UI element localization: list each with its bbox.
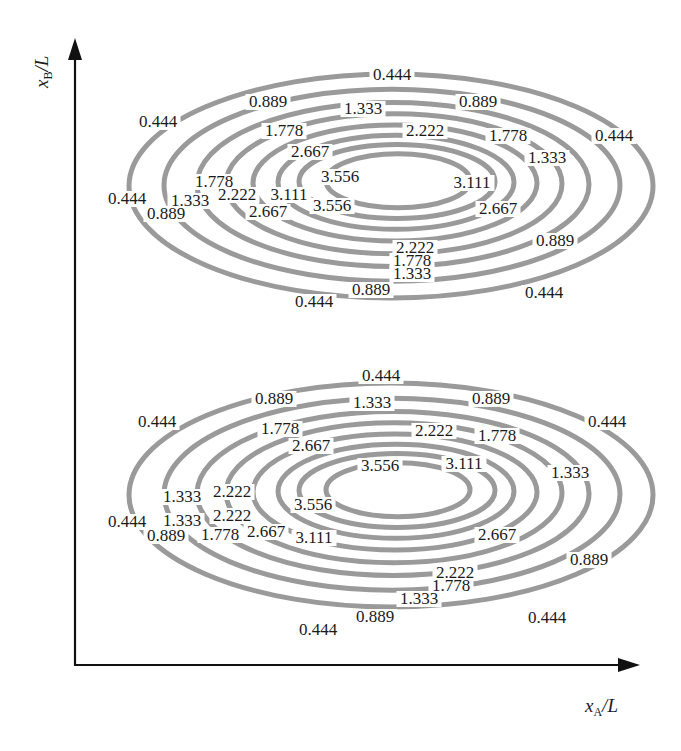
contour-level-label: 1.333 — [393, 264, 431, 283]
contour-level-label: 1.778 — [478, 426, 516, 445]
axes — [68, 38, 640, 672]
contour-level-label: 2.667 — [478, 525, 517, 544]
contour-level-label: 1.333 — [551, 463, 589, 482]
contour-level-label: 0.444 — [108, 512, 147, 531]
contour-level-label: 0.444 — [373, 65, 412, 84]
contour-level-label: 3.111 — [454, 173, 491, 192]
y-axis-arrow-icon — [68, 38, 82, 60]
contour-labels: 0.4440.8891.3330.8890.4441.7782.2221.778… — [105, 65, 637, 639]
contour-level-label: 1.333 — [400, 589, 438, 608]
contour-level-label: 0.889 — [356, 607, 394, 626]
contour-level-label: 0.444 — [528, 608, 567, 627]
contour-level-label: 1.333 — [528, 148, 566, 167]
contour-level-label: 0.444 — [525, 283, 564, 302]
contour-level-label: 3.111 — [446, 454, 483, 473]
contour-level-label: 0.444 — [108, 189, 147, 208]
contour-level-label: 2.222 — [415, 421, 453, 440]
contour-level-label: 3.111 — [296, 528, 333, 547]
contour-level-label: 1.778 — [265, 121, 303, 140]
x-axis-label: xA/L — [584, 695, 618, 719]
contour-level-label: 0.889 — [570, 550, 608, 569]
contour-level-label: 0.444 — [588, 412, 627, 431]
contour-level-label: 2.667 — [247, 522, 286, 541]
contour-level-label: 3.556 — [294, 495, 332, 514]
contour-level-label: 0.889 — [352, 280, 390, 299]
contour-level-label: 0.889 — [249, 92, 287, 111]
contour-level-label: 2.222 — [213, 482, 251, 501]
contour-level-label: 0.889 — [536, 231, 574, 250]
contour-level-label: 2.667 — [249, 202, 288, 221]
contour-level-label: 1.333 — [344, 99, 382, 118]
contour-level-label: 1.333 — [163, 487, 201, 506]
contour-level-label: 2.667 — [291, 142, 330, 161]
contour-level-label: 0.889 — [147, 526, 185, 545]
y-axis-label: xB/L — [31, 56, 55, 89]
contour-level-label: 1.778 — [201, 525, 239, 544]
contour-level-label: 0.444 — [295, 292, 334, 311]
contour-level-label: 3.556 — [361, 456, 399, 475]
contour-level-label: 1.778 — [489, 126, 527, 145]
contour-level-label: 2.222 — [406, 121, 444, 140]
contour-level-label: 0.889 — [459, 92, 497, 111]
contour-level-label: 0.444 — [362, 366, 401, 385]
contour-level-label: 1.333 — [353, 393, 391, 412]
contour-level-label: 0.889 — [147, 204, 185, 223]
x-axis-arrow-icon — [618, 658, 640, 672]
contour-level-label: 2.667 — [479, 199, 518, 218]
contour-level-label: 0.444 — [595, 126, 634, 145]
contour-level-label: 2.667 — [292, 436, 331, 455]
contour-level-label: 0.889 — [472, 389, 510, 408]
contour-level-label: 0.444 — [138, 412, 177, 431]
contour-level-label: 3.556 — [313, 196, 351, 215]
contour-level-label: 0.444 — [299, 620, 338, 639]
contour-level-label: 0.889 — [255, 389, 293, 408]
contour-level-label: 3.556 — [321, 167, 359, 186]
contour-level-label: 0.444 — [139, 112, 178, 131]
contour-plot: 0.4440.8891.3330.8890.4441.7782.2221.778… — [0, 0, 681, 751]
contour-level-label: 2.222 — [213, 506, 251, 525]
